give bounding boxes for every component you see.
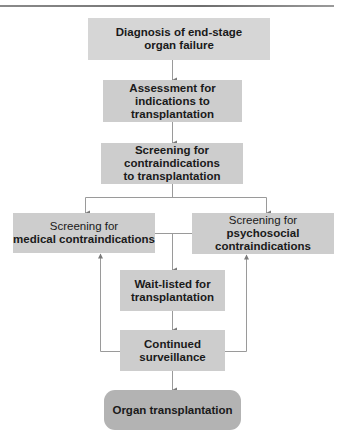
node-diagnosis: Diagnosis of end-stage organ failure (88, 18, 270, 60)
node-screening-psychosocial-line1: Screening for (215, 214, 311, 227)
node-assessment-line2: indications to (129, 95, 215, 108)
node-screening-medical: Screening for medical contraindications (13, 213, 155, 253)
edge-feedback-psychosocial (225, 255, 247, 352)
node-continued-surveillance: Continued surveillance (120, 330, 225, 371)
node-surveillance-line1: Continued (139, 338, 205, 351)
node-assessment: Assessment for indications to transplant… (103, 80, 242, 122)
node-screening-medical-line2: medical contraindications (13, 233, 155, 246)
node-surveillance-line2: surveillance (139, 351, 205, 364)
node-screening-psychosocial-line2: psychosocial (215, 227, 311, 240)
node-wait-listed-line1: Wait-listed for (131, 278, 214, 291)
node-assessment-line3: transplantation (129, 108, 215, 121)
edge-feedback-medical (101, 254, 121, 352)
node-screening-contra-line1: Screening for (123, 144, 220, 157)
node-screening-contra-line2: contraindications (123, 157, 220, 170)
top-rule-divider (0, 5, 334, 7)
node-screening-psychosocial-line3: contraindications (215, 240, 311, 253)
node-screening-psychosocial: Screening for psychosocial contraindicat… (192, 213, 334, 254)
node-screening-contra-line3: to transplantation (123, 170, 220, 183)
node-screening-contraindications: Screening for contraindications to trans… (101, 143, 243, 184)
node-organ-transplantation: Organ transplantation (104, 390, 241, 430)
node-transplantation-line1: Organ transplantation (112, 404, 232, 417)
node-screening-medical-line1: Screening for (13, 220, 155, 233)
node-diagnosis-line2: organ failure (116, 39, 243, 52)
node-diagnosis-line1: Diagnosis of end-stage (116, 26, 243, 39)
node-assessment-line1: Assessment for (129, 82, 215, 95)
node-wait-listed-line2: transplantation (131, 291, 214, 304)
node-wait-listed: Wait-listed for transplantation (120, 270, 225, 311)
